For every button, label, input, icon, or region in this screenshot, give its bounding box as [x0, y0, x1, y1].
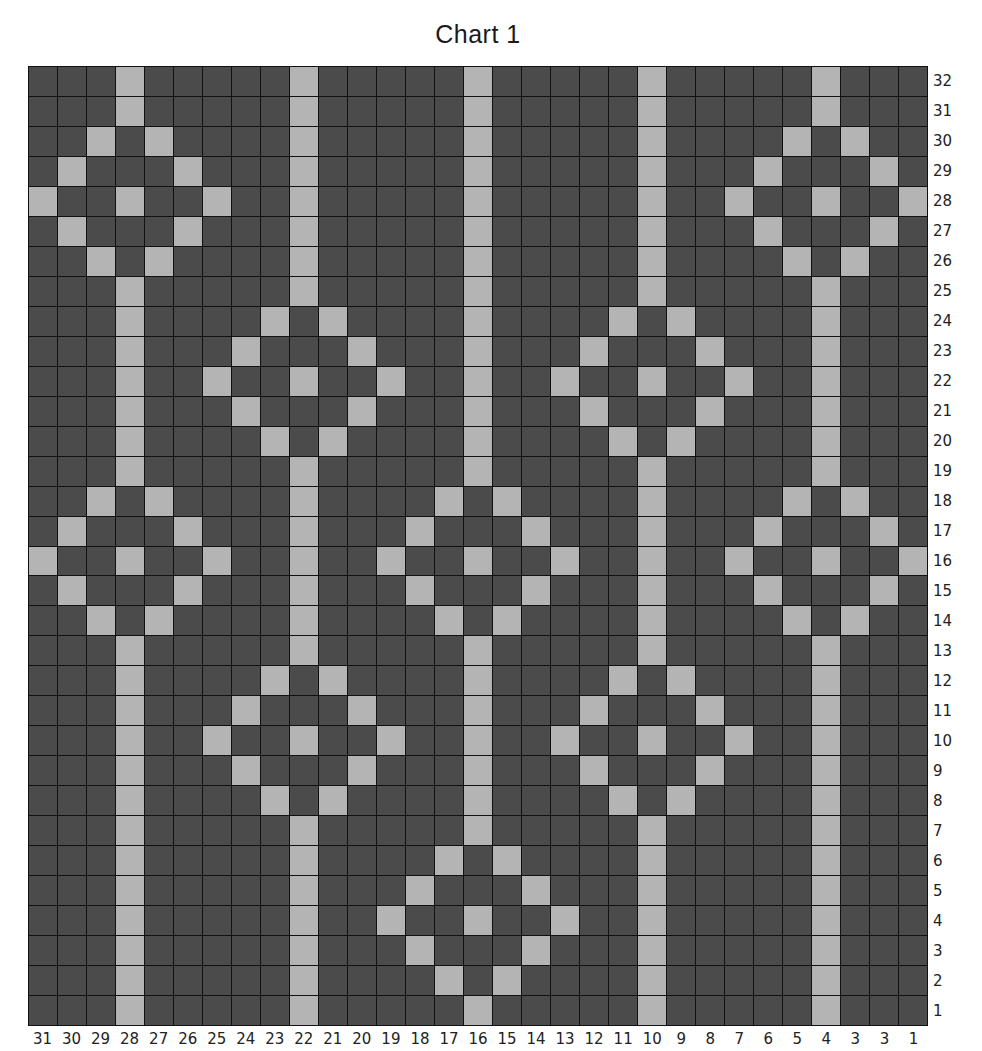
stitch-cell-dark — [58, 756, 86, 785]
stitch-cell-dark — [58, 996, 86, 1025]
stitch-cell-dark — [870, 876, 898, 905]
stitch-cell-light — [261, 427, 289, 456]
stitch-cell-light — [435, 846, 463, 875]
stitch-cell-dark — [87, 307, 115, 336]
stitch-cell-dark — [493, 217, 521, 246]
stitch-cell-dark — [145, 427, 173, 456]
stitch-cell-dark — [493, 696, 521, 725]
stitch-cell-dark — [667, 756, 695, 785]
stitch-cell-light — [29, 547, 57, 576]
column-label: 6 — [754, 1030, 783, 1048]
stitch-cell-light — [116, 996, 144, 1025]
stitch-cell-dark — [348, 966, 376, 995]
stitch-cell-dark — [261, 696, 289, 725]
stitch-cell-dark — [232, 786, 260, 815]
stitch-cell-dark — [841, 97, 869, 126]
stitch-cell-dark — [435, 936, 463, 965]
stitch-cell-dark — [348, 517, 376, 546]
stitch-cell-light — [377, 367, 405, 396]
stitch-cell-dark — [551, 606, 579, 635]
stitch-cell-dark — [783, 966, 811, 995]
stitch-cell-light — [435, 487, 463, 516]
stitch-cell-light — [58, 517, 86, 546]
stitch-cell-dark — [406, 427, 434, 456]
stitch-cell-dark — [522, 816, 550, 845]
stitch-cell-dark — [551, 397, 579, 426]
stitch-cell-dark — [783, 547, 811, 576]
stitch-cell-dark — [580, 427, 608, 456]
stitch-cell-dark — [841, 636, 869, 665]
stitch-cell-dark — [522, 636, 550, 665]
column-label: 25 — [202, 1030, 231, 1048]
stitch-cell-light — [638, 726, 666, 755]
stitch-cell-dark — [609, 576, 637, 605]
stitch-cell-dark — [899, 846, 927, 875]
column-label: 20 — [347, 1030, 376, 1048]
stitch-cell-dark — [725, 127, 753, 156]
stitch-cell-dark — [667, 397, 695, 426]
stitch-cell-dark — [667, 726, 695, 755]
stitch-cell-dark — [580, 816, 608, 845]
stitch-cell-dark — [174, 97, 202, 126]
stitch-cell-dark — [870, 487, 898, 516]
stitch-cell-dark — [203, 67, 231, 96]
stitch-cell-dark — [290, 756, 318, 785]
stitch-cell-dark — [580, 606, 608, 635]
stitch-cell-dark — [783, 786, 811, 815]
stitch-cell-dark — [493, 67, 521, 96]
stitch-cell-dark — [667, 487, 695, 516]
row-label: 26 — [933, 246, 978, 276]
stitch-cell-dark — [696, 666, 724, 695]
stitch-cell-light — [783, 247, 811, 276]
stitch-cell-dark — [203, 666, 231, 695]
stitch-cell-dark — [870, 666, 898, 695]
column-label: 12 — [580, 1030, 609, 1048]
stitch-cell-light — [609, 307, 637, 336]
stitch-cell-dark — [377, 457, 405, 486]
stitch-cell-light — [812, 996, 840, 1025]
stitch-cell-dark — [319, 277, 347, 306]
stitch-cell-dark — [232, 876, 260, 905]
stitch-cell-dark — [580, 547, 608, 576]
stitch-cell-dark — [725, 636, 753, 665]
stitch-cell-dark — [87, 816, 115, 845]
stitch-cell-dark — [696, 277, 724, 306]
stitch-cell-dark — [406, 756, 434, 785]
stitch-cell-light — [290, 936, 318, 965]
stitch-cell-light — [638, 846, 666, 875]
stitch-cell-dark — [290, 427, 318, 456]
stitch-cell-light — [174, 576, 202, 605]
stitch-cell-dark — [203, 157, 231, 186]
stitch-cell-dark — [725, 816, 753, 845]
stitch-cell-dark — [406, 127, 434, 156]
stitch-cell-dark — [377, 217, 405, 246]
stitch-cell-dark — [696, 67, 724, 96]
stitch-cell-dark — [116, 157, 144, 186]
stitch-cell-dark — [493, 307, 521, 336]
stitch-cell-dark — [232, 906, 260, 935]
stitch-cell-dark — [348, 487, 376, 516]
row-label: 1 — [933, 996, 978, 1026]
stitch-cell-dark — [783, 157, 811, 186]
stitch-cell-dark — [783, 876, 811, 905]
stitch-cell-dark — [435, 636, 463, 665]
stitch-cell-dark — [406, 187, 434, 216]
stitch-cell-dark — [58, 606, 86, 635]
stitch-cell-dark — [174, 547, 202, 576]
stitch-cell-light — [377, 906, 405, 935]
row-number-labels: 3231302928272625242322212019181716151413… — [933, 66, 978, 1026]
stitch-cell-dark — [667, 517, 695, 546]
stitch-cell-dark — [435, 786, 463, 815]
stitch-cell-dark — [551, 127, 579, 156]
row-label: 18 — [933, 486, 978, 516]
stitch-cell-light — [116, 696, 144, 725]
stitch-cell-dark — [493, 996, 521, 1025]
stitch-cell-dark — [203, 97, 231, 126]
stitch-cell-dark — [841, 217, 869, 246]
stitch-cell-dark — [435, 996, 463, 1025]
stitch-cell-dark — [377, 97, 405, 126]
stitch-cell-dark — [232, 127, 260, 156]
stitch-cell-dark — [783, 457, 811, 486]
stitch-cell-dark — [609, 367, 637, 396]
stitch-cell-dark — [290, 337, 318, 366]
